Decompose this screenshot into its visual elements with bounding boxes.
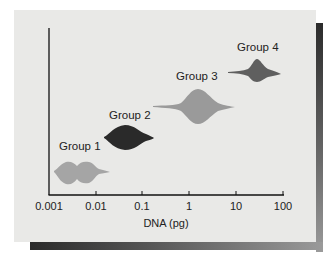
tick-label-10: 10 — [230, 200, 242, 212]
tick-label-0.001: 0.001 — [35, 200, 63, 212]
tick-label-0.01: 0.01 — [85, 200, 106, 212]
group-3-label: Group 3 — [176, 70, 218, 82]
violin-group-1 — [54, 162, 110, 185]
tick-label-100: 100 — [274, 200, 292, 212]
group-2-label: Group 2 — [109, 109, 151, 121]
group-1-label: Group 1 — [59, 140, 101, 152]
group-4-label: Group 4 — [237, 41, 279, 53]
tick-label-1: 1 — [186, 200, 192, 212]
violin-group-4 — [228, 59, 281, 82]
violin-group-3 — [153, 89, 235, 124]
tick-label-0.1: 0.1 — [134, 200, 149, 212]
violin-group-2 — [104, 125, 154, 150]
violin-chart: 0.001 0.01 0.1 1 10 100 DNA (pg) Group 1… — [0, 0, 334, 264]
x-axis-title: DNA (pg) — [143, 217, 188, 229]
